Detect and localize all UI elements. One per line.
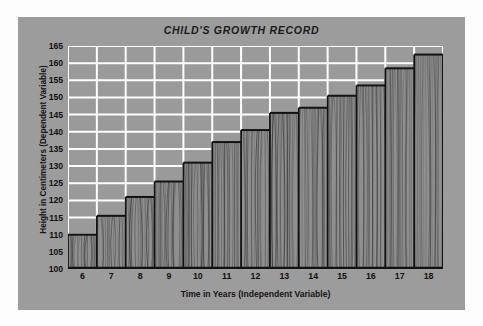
y-tick-label: 130 (35, 161, 63, 171)
y-tick-label: 135 (35, 144, 63, 154)
x-tick-label: 12 (251, 271, 261, 281)
x-tick-label: 6 (80, 271, 85, 281)
y-tick-label: 140 (35, 127, 63, 137)
x-tick-label: 7 (109, 271, 114, 281)
y-tick-label: 120 (35, 195, 63, 205)
y-tick-label: 100 (35, 264, 63, 274)
x-tick-label: 18 (424, 271, 434, 281)
plot-area: 1651601551501451401351301251201151101051… (68, 46, 443, 269)
y-tick-label: 115 (35, 213, 63, 223)
y-tick-label: 145 (35, 110, 63, 120)
x-tick-label: 15 (337, 271, 347, 281)
chart-page: CHILD'S GROWTH RECORD Height in Centimet… (0, 0, 483, 326)
x-tick-label: 9 (167, 271, 172, 281)
x-axis-title: Time in Years (Independent Variable) (68, 289, 443, 299)
chart-card: CHILD'S GROWTH RECORD Height in Centimet… (18, 17, 465, 310)
y-tick-label: 160 (35, 58, 63, 68)
x-tick-label: 8 (138, 271, 143, 281)
x-tick-label: 16 (366, 271, 376, 281)
y-tick-label: 125 (35, 178, 63, 188)
x-tick-label: 17 (395, 271, 405, 281)
y-tick-label: 105 (35, 247, 63, 257)
y-tick-label: 155 (35, 75, 63, 85)
y-axis-tick-labels: 1651601551501451401351301251201151101051… (35, 46, 63, 269)
y-tick-label: 150 (35, 92, 63, 102)
chart-title: CHILD'S GROWTH RECORD (18, 24, 465, 36)
x-axis-tick-labels: 6789101112131415161718 (68, 271, 443, 287)
x-tick-label: 10 (193, 271, 203, 281)
x-tick-label: 14 (308, 271, 318, 281)
y-tick-label: 110 (35, 230, 63, 240)
y-tick-label: 165 (35, 41, 63, 51)
x-tick-label: 13 (279, 271, 289, 281)
bar-series (68, 46, 443, 269)
x-tick-label: 11 (222, 271, 231, 281)
